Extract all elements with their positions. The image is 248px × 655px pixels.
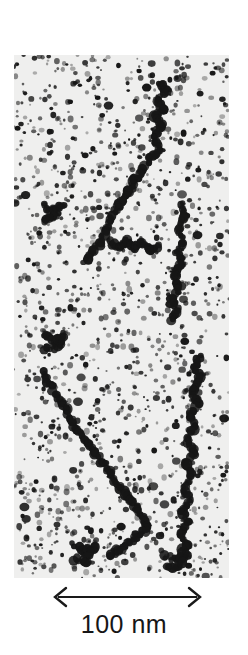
micrograph-image <box>14 55 229 578</box>
scale-bar-arrow-icon <box>50 584 205 610</box>
scale-bar-label: 100 nm <box>0 609 248 639</box>
scale-bar <box>50 584 205 610</box>
micrograph-figure: 100 nm <box>0 0 248 655</box>
micrograph-canvas <box>14 55 229 578</box>
